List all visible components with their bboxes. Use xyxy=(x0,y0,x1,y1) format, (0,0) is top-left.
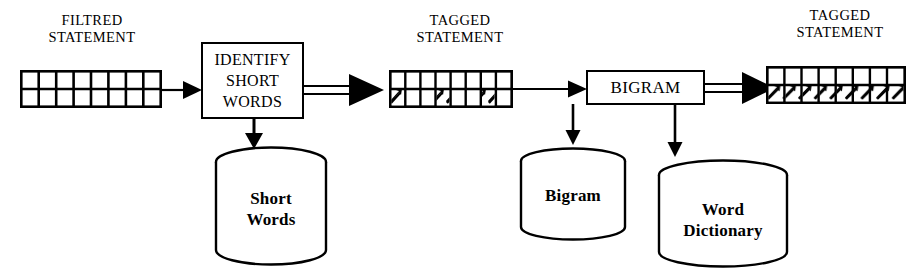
datastore-short-words-label: Short Words xyxy=(213,188,329,230)
tagged-statement-grid-1 xyxy=(389,70,513,108)
datastore-bigram[interactable]: Bigram xyxy=(518,147,628,242)
datastore-word-dictionary[interactable]: Word Dictionary xyxy=(655,159,791,269)
connector-bigram-to-word-dictionary xyxy=(665,104,685,158)
label-filtred-statement: FILTRED STATEMENT xyxy=(22,12,162,46)
process-identify-short-words[interactable]: IDENTIFY SHORT WORDS xyxy=(201,42,304,119)
connector-bigram-to-bigram-store xyxy=(563,104,583,146)
connector-identify-to-tagged-1 xyxy=(303,74,385,106)
process-bigram[interactable]: BIGRAM xyxy=(586,70,705,105)
datastore-bigram-label: Bigram xyxy=(518,185,628,206)
datastore-short-words[interactable]: Short Words xyxy=(213,146,329,268)
diagram-canvas: FILTRED STATEMENT IDENTIFY SHORT WORDS xyxy=(0,0,923,280)
tagged-statement-grid-2 xyxy=(766,66,906,104)
grid-cells xyxy=(21,71,160,106)
label-tagged-statement-2: TAGGED STATEMENT xyxy=(770,7,910,41)
connector-filtred-to-identify xyxy=(161,80,203,100)
connector-tagged-1-to-bigram xyxy=(512,79,588,99)
label-tagged-statement-1: TAGGED STATEMENT xyxy=(390,12,530,46)
datastore-word-dictionary-label: Word Dictionary xyxy=(655,199,791,241)
filtred-statement-grid xyxy=(20,70,162,108)
